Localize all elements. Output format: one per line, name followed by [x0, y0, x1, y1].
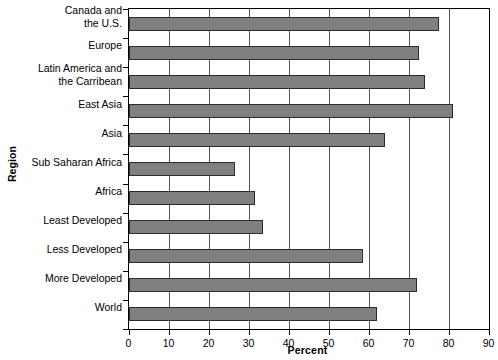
y-axis-tick: [123, 96, 129, 97]
gridline: [449, 9, 450, 329]
y-axis-category-label: Less Developed: [14, 243, 122, 256]
y-axis-tick: [123, 125, 129, 126]
x-axis-tick: [369, 329, 370, 335]
x-axis-tick: [249, 329, 250, 335]
y-axis-tick: [123, 213, 129, 214]
x-axis-tick: [169, 329, 170, 335]
y-axis-tick: [123, 329, 129, 330]
y-axis-tick: [123, 271, 129, 272]
x-axis-tick: [409, 329, 410, 335]
x-axis-title: Percent: [128, 344, 488, 356]
bar: [129, 191, 255, 205]
y-axis-tick: [123, 38, 129, 39]
category-label-column: Canada and the U.S.EuropeLatin America a…: [14, 8, 122, 328]
y-axis-category-label: Asia: [14, 127, 122, 140]
y-axis-category-label: More Developed: [14, 272, 122, 285]
bar: [129, 249, 363, 263]
y-axis-tick: [123, 242, 129, 243]
bar: [129, 46, 419, 60]
bar: [129, 17, 439, 31]
y-axis-category-label: Latin America and the Carribean: [14, 62, 122, 87]
bar: [129, 133, 385, 147]
x-axis-tick: [129, 329, 130, 335]
y-axis-tick: [123, 184, 129, 185]
bar: [129, 220, 263, 234]
bar: [129, 104, 453, 118]
y-axis-tick: [123, 67, 129, 68]
bar: [129, 162, 235, 176]
y-axis-category-label: East Asia: [14, 98, 122, 111]
y-axis-tick: [123, 154, 129, 155]
bar-chart: Region Canada and the U.S.EuropeLatin Am…: [0, 0, 498, 360]
x-axis-tick: [449, 329, 450, 335]
y-axis-category-label: Least Developed: [14, 214, 122, 227]
y-axis-category-label: Europe: [14, 39, 122, 52]
bar: [129, 75, 425, 89]
x-axis-tick: [209, 329, 210, 335]
y-axis-tick: [123, 300, 129, 301]
x-axis-tick: [489, 329, 490, 335]
x-axis-tick: [329, 329, 330, 335]
bar: [129, 278, 417, 292]
plot-area: 0102030405060708090: [128, 8, 490, 330]
y-axis-category-label: World: [14, 301, 122, 314]
y-axis-tick: [123, 9, 129, 10]
y-axis-category-label: Canada and the U.S.: [14, 4, 122, 29]
bar: [129, 307, 377, 321]
x-axis-tick: [289, 329, 290, 335]
y-axis-category-label: Africa: [14, 185, 122, 198]
y-axis-category-label: Sub Saharan Africa: [14, 156, 122, 169]
